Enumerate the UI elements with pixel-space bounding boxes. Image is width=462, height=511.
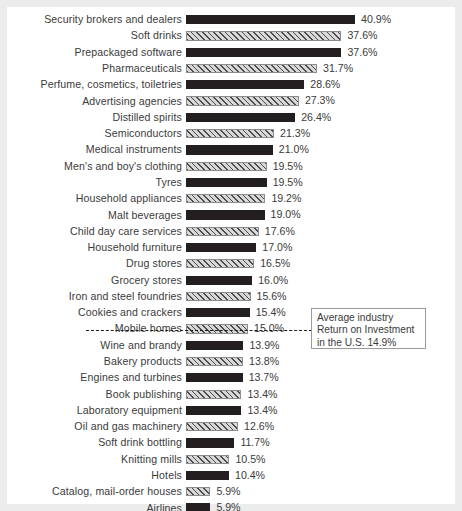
bar-category-label: Hotels <box>0 469 182 482</box>
bar-category-label: Security brokers and dealers <box>0 13 182 26</box>
bar <box>186 455 229 464</box>
bar-category-label: Soft drinks <box>0 29 182 42</box>
bar-with-value: 13.8% <box>186 357 279 366</box>
bar <box>186 438 234 447</box>
bar-category-label: Iron and steel foundries <box>0 290 182 303</box>
bar <box>186 64 317 73</box>
bar <box>186 422 238 431</box>
bar-with-value: 27.3% <box>186 96 335 105</box>
bar-value-label: 13.9% <box>249 341 279 350</box>
chart-frame: Security brokers and dealers40.9%Soft dr… <box>0 0 462 511</box>
bar-with-value: 10.4% <box>186 471 265 480</box>
bar-row: Security brokers and dealers40.9% <box>0 12 462 28</box>
bar-category-label: Book publishing <box>0 388 182 401</box>
bar-value-label: 5.9% <box>216 487 240 496</box>
bar <box>186 31 341 40</box>
bar-value-label: 19.5% <box>273 178 303 187</box>
bar <box>186 308 250 317</box>
bar-category-label: Perfume, cosmetics, toiletries <box>0 78 182 91</box>
bar <box>186 471 229 480</box>
bar-with-value: 13.9% <box>186 341 280 350</box>
bar-row: Bakery products13.8% <box>0 353 462 369</box>
bar-value-label: 13.8% <box>249 357 279 366</box>
bar <box>186 178 267 187</box>
bar-value-label: 31.7% <box>323 64 353 73</box>
bar-with-value: 5.9% <box>186 503 241 511</box>
bar-category-label: Wine and brandy <box>0 339 182 352</box>
bar-row: Medical instruments21.0% <box>0 142 462 158</box>
bar <box>186 48 341 57</box>
bar-value-label: 21.3% <box>280 129 310 138</box>
bar-row: Soft drink bottling11.7% <box>0 435 462 451</box>
bar <box>186 324 248 333</box>
bar-category-label: Malt beverages <box>0 209 182 222</box>
bar <box>186 390 241 399</box>
bar-category-label: Engines and turbines <box>0 371 182 384</box>
bar-with-value: 19.5% <box>186 178 303 187</box>
bar-category-label: Pharmaceuticals <box>0 62 182 75</box>
bar <box>186 145 273 154</box>
bar <box>186 15 355 24</box>
bar <box>186 243 256 252</box>
bar <box>186 292 251 301</box>
bar-value-label: 17.0% <box>262 243 292 252</box>
bar-with-value: 40.9% <box>186 15 391 24</box>
bar-category-label: Catalog, mail-order houses <box>0 485 182 498</box>
bar-value-label: 19.0% <box>271 210 301 219</box>
bar <box>186 210 265 219</box>
bar-with-value: 37.6% <box>186 31 378 40</box>
bar-value-label: 27.3% <box>305 96 335 105</box>
average-roi-dashed-line <box>86 330 312 331</box>
bar-value-label: 26.4% <box>301 113 331 122</box>
bar-with-value: 17.0% <box>186 243 292 252</box>
bar-value-label: 21.0% <box>279 145 309 154</box>
bar <box>186 113 295 122</box>
bar-category-label: Oil and gas machinery <box>0 420 182 433</box>
bar <box>186 129 274 138</box>
bar-with-value: 37.6% <box>186 48 378 57</box>
bar-value-label: 19.5% <box>273 162 303 171</box>
bar-row: Advertising agencies27.3% <box>0 93 462 109</box>
bar-row: Hotels10.4% <box>0 467 462 483</box>
bar-row: Drug stores16.5% <box>0 256 462 272</box>
bar-category-label: Laboratory equipment <box>0 404 182 417</box>
bar-row: Malt beverages19.0% <box>0 207 462 223</box>
bar-value-label: 13.4% <box>247 390 277 399</box>
bar-with-value: 17.6% <box>186 227 295 236</box>
bar-category-label: Knitting mills <box>0 453 182 466</box>
bar-chart-plot-area: Security brokers and dealers40.9%Soft dr… <box>0 0 462 511</box>
bar <box>186 259 254 268</box>
bar-value-label: 15.0% <box>254 324 284 333</box>
bar-value-label: 13.4% <box>247 406 277 415</box>
bar-row: Household furniture17.0% <box>0 239 462 255</box>
bar <box>186 487 210 496</box>
bar-category-label: Distilled spirits <box>0 111 182 124</box>
bar-with-value: 15.0% <box>186 324 284 333</box>
bar-row: Prepackaged software37.6% <box>0 44 462 60</box>
callout-line-1: Average industry <box>317 312 425 324</box>
bar-row: Catalog, mail-order houses5.9% <box>0 484 462 500</box>
bar-category-label: Medical instruments <box>0 143 182 156</box>
bar-value-label: 12.6% <box>244 422 274 431</box>
bar-row: Oil and gas machinery12.6% <box>0 419 462 435</box>
bar-with-value: 5.9% <box>186 487 241 496</box>
bar-category-label: Semiconductors <box>0 127 182 140</box>
bar-row: Engines and turbines13.7% <box>0 370 462 386</box>
bar-category-label: Men's and boy's clothing <box>0 160 182 173</box>
bar-value-label: 10.4% <box>235 471 265 480</box>
bar-value-label: 16.5% <box>260 259 290 268</box>
bar-row: Tyres19.5% <box>0 174 462 190</box>
bar-with-value: 13.4% <box>186 390 277 399</box>
bar-category-label: Airlines <box>0 502 182 511</box>
bar-category-label: Drug stores <box>0 257 182 270</box>
bar-value-label: 37.6% <box>347 48 377 57</box>
bar-with-value: 15.4% <box>186 308 286 317</box>
bar-with-value: 28.6% <box>186 80 340 89</box>
bar-value-label: 37.6% <box>347 31 377 40</box>
bar-with-value: 11.7% <box>186 438 270 447</box>
bar-with-value: 26.4% <box>186 113 331 122</box>
bar-value-label: 16.0% <box>258 276 288 285</box>
bar-with-value: 12.6% <box>186 422 274 431</box>
bar-category-label: Soft drink bottling <box>0 436 182 449</box>
bar-value-label: 17.6% <box>265 227 295 236</box>
